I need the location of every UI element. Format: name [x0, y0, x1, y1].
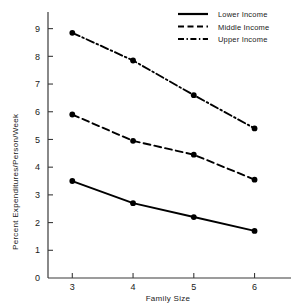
y-tick-label: 6 [35, 107, 40, 117]
x-tick-label: 6 [252, 282, 257, 292]
y-tick-label: 7 [35, 79, 40, 89]
legend-label: Lower Income [218, 10, 268, 19]
data-point [252, 177, 258, 183]
data-point [252, 228, 258, 234]
y-tick-label: 3 [35, 190, 40, 200]
data-point [191, 152, 197, 158]
legend-label: Middle Income [218, 23, 269, 32]
data-point [191, 214, 197, 220]
data-point [69, 30, 75, 36]
y-tick-label: 9 [35, 24, 40, 34]
data-point [252, 125, 258, 131]
line-chart: 0123456789 3456 Percent Expenditures/Per… [0, 0, 303, 308]
data-point [69, 178, 75, 184]
y-tick-label: 8 [35, 52, 40, 62]
x-tick-label: 4 [131, 282, 136, 292]
y-tick-label: 4 [35, 162, 40, 172]
data-point [130, 58, 136, 64]
y-tick-label: 0 [35, 273, 40, 283]
chart-container: 0123456789 3456 Percent Expenditures/Per… [0, 0, 303, 308]
chart-background [0, 0, 303, 308]
x-axis-title: Family Size [146, 294, 191, 303]
x-tick-label: 5 [191, 282, 196, 292]
data-point [130, 200, 136, 206]
y-tick-label: 5 [35, 135, 40, 145]
y-tick-label: 1 [35, 245, 40, 255]
y-axis-title: Percent Expenditures/Person/Week [11, 113, 20, 250]
y-tick-label: 2 [35, 218, 40, 228]
x-tick-label: 3 [70, 282, 75, 292]
data-point [69, 112, 75, 118]
data-point [191, 92, 197, 98]
legend-label: Upper Income [218, 35, 268, 44]
data-point [130, 138, 136, 144]
